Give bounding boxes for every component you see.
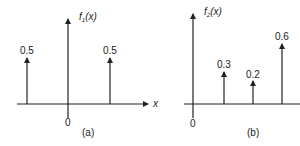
y-label-a: f1(x): [79, 11, 97, 23]
panel-b: 0.3 0.2 0.6 f2(x) 0 (b): [184, 6, 300, 138]
stem-label-b-1: 0.3: [217, 59, 231, 70]
stem-label-b-2: 0.2: [246, 69, 260, 80]
diagram-canvas: 0.5 0.5 f1(x) x 0 (a) 0.3 0.2 0.6 f2(x) …: [0, 0, 300, 146]
stem-label-a-right: 0.5: [103, 45, 117, 56]
panel-a: 0.5 0.5 f1(x) x 0 (a): [17, 11, 159, 138]
caption-a: (a): [82, 127, 94, 138]
y-label-b: f2(x): [204, 6, 222, 18]
stem-label-b-3: 0.6: [275, 31, 289, 42]
x-axis-label: x: [152, 98, 159, 109]
origin-label-b: 0: [190, 118, 196, 129]
origin-label-a: 0: [65, 117, 71, 128]
stem-label-a-left: 0.5: [20, 45, 34, 56]
caption-b: (b): [247, 127, 259, 138]
